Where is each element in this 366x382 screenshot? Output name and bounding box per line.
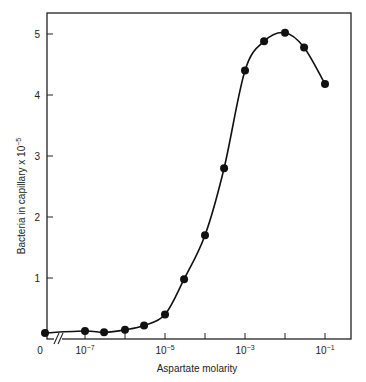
data-point — [321, 80, 329, 88]
data-curve — [45, 33, 325, 333]
y-tick-label: 2 — [34, 212, 40, 223]
y-tick-label: 1 — [34, 273, 40, 284]
axis-break-icon — [54, 333, 63, 344]
data-point — [201, 231, 209, 239]
x-tick-label: 10−7 — [75, 344, 94, 356]
chart: 12345 010−710−510−310−1 Aspartate molari… — [0, 0, 366, 382]
y-tick-label: 4 — [34, 90, 40, 101]
data-point — [41, 329, 49, 337]
x-axis-label: Aspartate molarity — [157, 363, 238, 374]
data-point — [220, 164, 228, 172]
data-point — [121, 326, 129, 334]
plot-frame — [47, 13, 351, 339]
data-point — [140, 322, 148, 330]
x-tick-label: 10−5 — [155, 344, 174, 356]
data-point — [81, 327, 89, 335]
y-axis-ticks: 12345 — [34, 29, 53, 284]
x-tick-label: 10−1 — [315, 344, 334, 356]
data-point — [260, 37, 268, 45]
data-point — [161, 311, 169, 319]
x-tick-label: 10−3 — [235, 344, 254, 356]
x-axis-ticks: 010−710−510−310−1 — [37, 333, 334, 356]
data-point — [300, 43, 308, 51]
data-point — [100, 328, 108, 336]
y-axis-label: Bacteria in capillary x 10−5 — [15, 138, 27, 254]
data-point — [241, 67, 249, 75]
data-points — [41, 29, 329, 337]
y-tick-label: 5 — [34, 29, 40, 40]
x-tick-label: 0 — [37, 345, 43, 356]
data-point — [180, 275, 188, 283]
data-point — [281, 29, 289, 37]
y-tick-label: 3 — [34, 151, 40, 162]
